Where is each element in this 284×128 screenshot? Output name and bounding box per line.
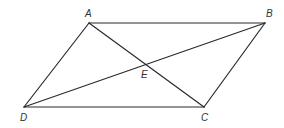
segment-db	[24, 23, 265, 107]
segment-ac	[89, 23, 204, 107]
segment-bc	[204, 23, 265, 107]
vertex-label-d: D	[20, 112, 27, 123]
intersection-label-e: E	[141, 69, 148, 80]
vertex-label-c: C	[201, 112, 209, 123]
vertex-label-a: A	[84, 8, 92, 19]
vertex-label-b: B	[266, 8, 273, 19]
segments-group	[24, 23, 265, 107]
segment-da	[24, 23, 89, 107]
parallelogram-diagram: A B C D E	[0, 0, 284, 128]
